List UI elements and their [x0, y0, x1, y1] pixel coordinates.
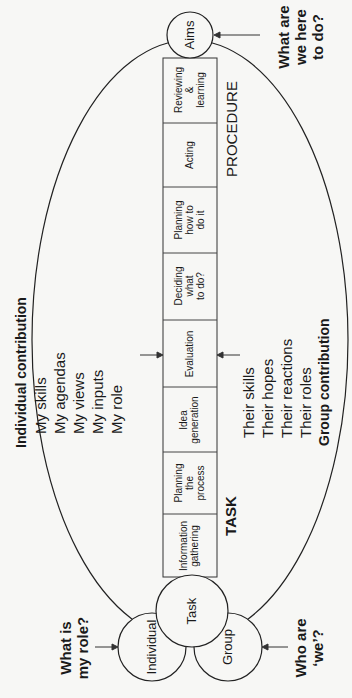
group-label: Group: [220, 617, 236, 677]
individual-label: Individual: [144, 609, 160, 685]
group-question-line: Who are: [292, 608, 309, 688]
step-line: generation: [189, 388, 200, 452]
step-line: to do?: [195, 254, 206, 318]
group-contribution: Their skills Their hopes Their reactions…: [239, 318, 339, 468]
step-evaluation: Evaluation: [184, 322, 196, 386]
list-item: Their reactions: [277, 318, 296, 438]
list-item: Their hopes: [258, 318, 277, 438]
step-line: how to: [184, 188, 195, 252]
list-item: My views: [69, 268, 88, 434]
step-line: gathering: [189, 514, 200, 578]
task-label: Task: [184, 586, 200, 636]
step-line: Information: [178, 514, 189, 578]
list-item: My inputs: [88, 268, 107, 434]
step-line: learning: [195, 58, 206, 122]
list-item: Their skills: [239, 318, 258, 438]
list-item: My agendas: [50, 268, 69, 434]
step-idea-generation: Idea generation: [178, 388, 202, 452]
step-planning-the-process: Planning the process: [173, 451, 207, 515]
step-line: Deciding: [173, 254, 184, 318]
step-line: process: [195, 451, 206, 515]
group-question: Who are ‘we’?: [292, 608, 328, 688]
step-line: do it: [195, 188, 206, 252]
step-information-gathering: Information gathering: [178, 514, 202, 578]
list-item: My role: [107, 268, 126, 434]
step-line: Planning: [173, 188, 184, 252]
step-deciding-what-to-do: Deciding what to do?: [173, 254, 207, 318]
step-line: Idea: [178, 388, 189, 452]
individual-question: What is my role?: [57, 608, 93, 688]
step-line: Evaluation: [184, 322, 195, 386]
group-contribution-list: Their skills Their hopes Their reactions…: [239, 318, 315, 468]
step-line: what: [184, 254, 195, 318]
step-line: Acting: [184, 123, 195, 187]
individual-question-line: What is: [57, 608, 74, 688]
aims-question-line: to do?: [309, 0, 326, 92]
step-line: Planning: [173, 451, 184, 515]
aims-label: Aims: [182, 10, 198, 60]
individual-contribution-list: My skills My agendas My views My inputs …: [31, 268, 126, 448]
individual-contribution: Individual contribution My skills My age…: [12, 268, 128, 448]
step-line: &: [184, 58, 195, 122]
aims-question-line: we here: [292, 0, 309, 92]
step-reviewing-learning: Reviewing & learning: [173, 58, 207, 122]
aims-question-line: What are: [275, 0, 292, 92]
step-acting: Acting: [184, 123, 196, 187]
individual-question-line: my role?: [74, 608, 91, 688]
step-line: the: [184, 451, 195, 515]
list-item: Their roles: [296, 318, 315, 438]
individual-contribution-heading: Individual contribution: [12, 268, 31, 448]
procedure-section-label: PROCEDURE: [223, 79, 241, 179]
group-contribution-heading: Group contribution: [315, 318, 334, 468]
step-line: Reviewing: [173, 58, 184, 122]
group-question-line: ‘we’?: [309, 608, 326, 688]
step-planning-how-to-do-it: Planning how to do it: [173, 188, 207, 252]
list-item: My skills: [31, 268, 50, 434]
aims-question: What are we here to do?: [275, 0, 329, 92]
task-section-label: TASK: [222, 491, 240, 541]
